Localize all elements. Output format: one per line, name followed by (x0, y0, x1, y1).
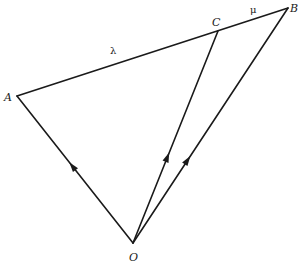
label-mu: μ (250, 4, 257, 15)
arrowhead-OC-icon (163, 151, 173, 163)
vector-diagram: A B C O λ μ (0, 0, 300, 265)
vector-OC (133, 31, 218, 243)
label-C: C (212, 16, 221, 29)
label-A: A (3, 91, 12, 104)
segment-AB (17, 8, 288, 96)
label-O: O (129, 251, 138, 264)
label-lambda: λ (110, 45, 117, 56)
arrowhead-OB-icon (182, 154, 193, 166)
label-B: B (289, 2, 298, 15)
vector-OB (133, 8, 288, 243)
